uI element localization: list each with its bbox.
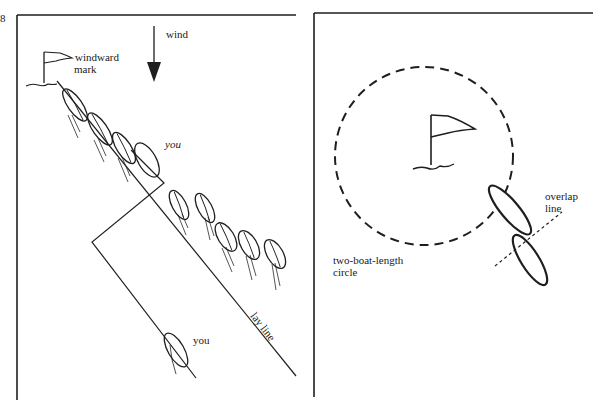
boat-icon	[234, 227, 264, 263]
you-label-top: you	[164, 138, 181, 150]
two-boat-length-circle	[335, 67, 513, 245]
you-label-bottom: you	[193, 334, 210, 346]
boat-icon	[191, 191, 218, 226]
right-panel: two-boat-length circle overlap line	[314, 13, 593, 397]
boat-icon	[260, 236, 290, 272]
lay-line-label: lay line	[248, 310, 278, 343]
wind-arrow-icon	[147, 26, 161, 82]
boat-icon	[483, 180, 537, 239]
diagram-canvas: 8 windward mark wind lay line	[0, 0, 593, 408]
windward-mark-label-line1: windward	[75, 51, 119, 63]
figure-number: 8	[0, 12, 6, 24]
windward-mark-label-line2: mark	[74, 63, 97, 75]
wind-label: wind	[166, 28, 189, 40]
boat-icon	[160, 330, 193, 371]
boat-icon	[211, 219, 242, 255]
flag-icon	[26, 52, 72, 86]
overlap-label-line2: line	[545, 202, 562, 214]
boat-icon	[507, 231, 553, 290]
overlap-label-line1: overlap	[545, 190, 578, 202]
circle-label-line2: circle	[333, 266, 358, 278]
left-panel: windward mark wind lay line	[17, 15, 296, 400]
flag-icon	[413, 115, 475, 169]
circle-label-line1: two-boat-length	[333, 254, 404, 266]
boat-icon	[58, 85, 91, 124]
your-course-line	[92, 150, 196, 378]
